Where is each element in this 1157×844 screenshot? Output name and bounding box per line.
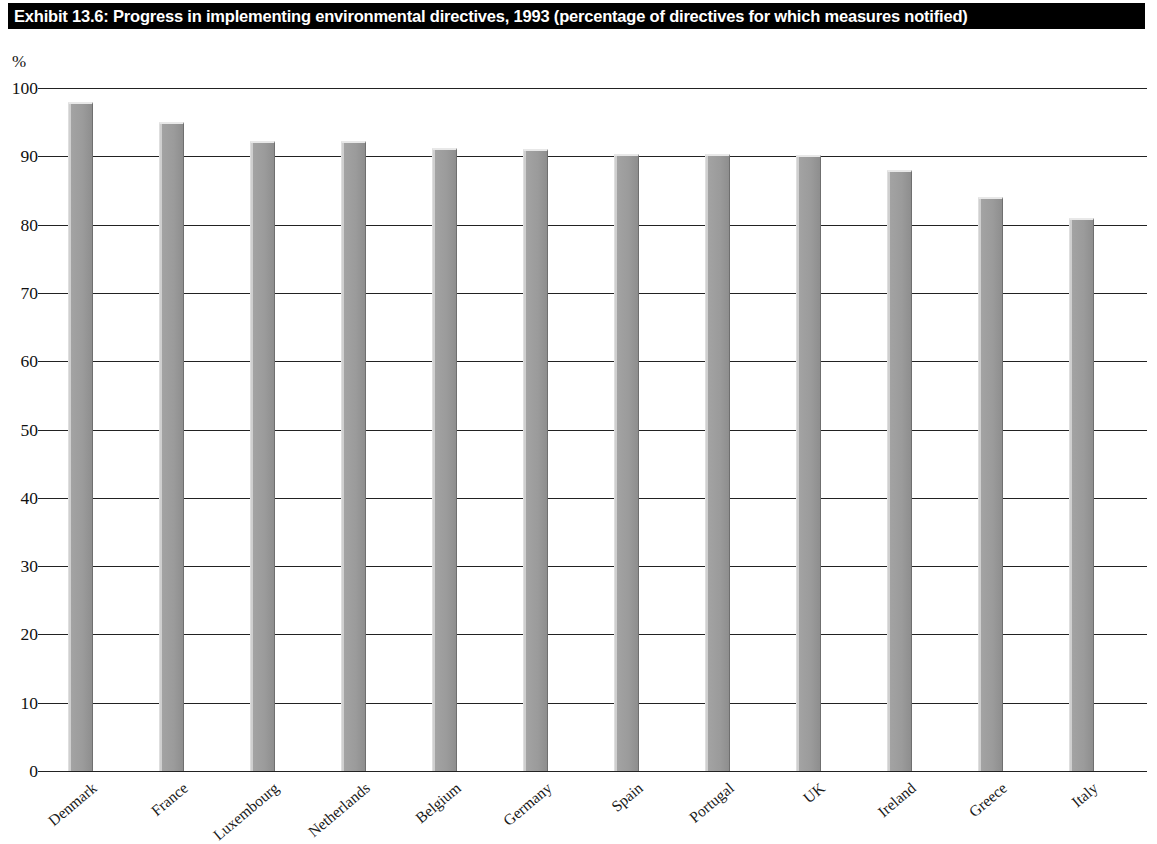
y-axis-tick-60 bbox=[38, 361, 55, 362]
y-axis-tick-100 bbox=[38, 88, 55, 89]
x-axis-label-uk: UK bbox=[799, 779, 828, 807]
x-axis-label-france: France bbox=[147, 779, 191, 820]
bar-uk[interactable] bbox=[796, 155, 821, 771]
y-axis-tick-label-40: 40 bbox=[0, 487, 38, 508]
x-axis-tick-labels: DenmarkFranceLuxembourgNetherlandsBelgiu… bbox=[0, 771, 1157, 844]
y-axis-tick-label-20: 20 bbox=[0, 624, 38, 645]
x-axis-label-luxembourg: Luxembourg bbox=[209, 779, 282, 844]
x-axis-label-germany: Germany bbox=[499, 779, 555, 830]
bar-italy[interactable] bbox=[1069, 218, 1094, 771]
y-axis-tick-10 bbox=[38, 703, 55, 704]
bar-germany[interactable] bbox=[523, 149, 548, 771]
y-axis-tick-labels: 1009080706050403020100 bbox=[0, 88, 38, 771]
x-axis-label-netherlands: Netherlands bbox=[304, 779, 373, 841]
x-axis-label-denmark: Denmark bbox=[44, 779, 100, 830]
bar-spain[interactable] bbox=[614, 154, 639, 771]
bar-luxembourg[interactable] bbox=[250, 141, 275, 771]
bar-france[interactable] bbox=[159, 122, 184, 771]
y-axis-tick-70 bbox=[38, 293, 55, 294]
y-axis-tick-label-50: 50 bbox=[0, 419, 38, 440]
y-axis-tick-label-90: 90 bbox=[0, 146, 38, 167]
y-axis-unit-label: % bbox=[12, 52, 26, 72]
y-axis-tick-label-100: 100 bbox=[0, 78, 38, 99]
y-axis-tick-40 bbox=[38, 498, 55, 499]
bar-greece[interactable] bbox=[978, 197, 1003, 771]
x-axis-label-greece: Greece bbox=[965, 779, 1010, 821]
bar-portugal[interactable] bbox=[705, 154, 730, 771]
y-axis-tick-label-60: 60 bbox=[0, 351, 38, 372]
y-axis-tick-20 bbox=[38, 634, 55, 635]
y-axis-tick-90 bbox=[38, 156, 55, 157]
bar-denmark[interactable] bbox=[68, 102, 93, 771]
y-axis-tick-50 bbox=[38, 430, 55, 431]
y-axis-tick-80 bbox=[38, 225, 55, 226]
x-axis-label-belgium: Belgium bbox=[412, 779, 464, 827]
y-axis-tick-label-10: 10 bbox=[0, 692, 38, 713]
plot-area bbox=[55, 88, 1147, 771]
bar-ireland[interactable] bbox=[887, 170, 912, 771]
x-axis-label-ireland: Ireland bbox=[874, 779, 919, 821]
y-axis-tick-30 bbox=[38, 566, 55, 567]
y-axis-tick-label-30: 30 bbox=[0, 556, 38, 577]
gridline-100 bbox=[55, 88, 1147, 89]
bar-netherlands[interactable] bbox=[341, 141, 366, 771]
y-axis-tick-label-70: 70 bbox=[0, 282, 38, 303]
x-axis-label-italy: Italy bbox=[1068, 779, 1101, 811]
bar-chart: % 1009080706050403020100 DenmarkFranceLu… bbox=[0, 0, 1157, 844]
gridline-90 bbox=[55, 156, 1147, 157]
bar-belgium[interactable] bbox=[432, 148, 457, 771]
y-axis-tick-label-80: 80 bbox=[0, 214, 38, 235]
x-axis-label-spain: Spain bbox=[607, 779, 646, 815]
x-axis-label-portugal: Portugal bbox=[685, 779, 737, 827]
